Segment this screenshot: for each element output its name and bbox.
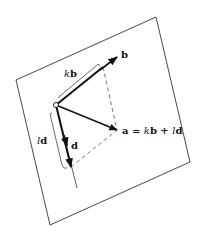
origin-point (54, 103, 59, 108)
b-vector (100, 57, 117, 70)
label-ld: ld (37, 135, 47, 146)
dashed-side-b (103, 67, 117, 130)
label-d: d (71, 140, 78, 151)
label-a-equation: a = kb + ld (122, 125, 182, 136)
plane (16, 17, 190, 225)
vector-diagram: b kb ld d a = kb + ld (0, 0, 202, 242)
ld-arrow (69, 158, 71, 167)
label-kb: kb (64, 68, 77, 79)
label-b: b (121, 49, 128, 60)
a-vector (56, 105, 117, 130)
